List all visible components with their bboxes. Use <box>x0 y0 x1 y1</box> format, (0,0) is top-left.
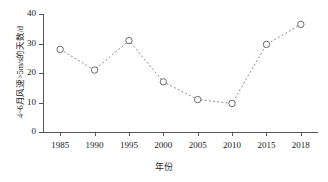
x-axis-line <box>43 132 318 133</box>
y-tick-label: 10 <box>27 97 36 107</box>
y-tick-label: 20 <box>27 67 36 77</box>
plot-area: 010203040 198519901995200020052010201520… <box>43 14 318 132</box>
x-tick-label: 1985 <box>51 140 69 150</box>
data-point-marker <box>160 79 166 85</box>
x-tick <box>60 132 61 136</box>
data-point-marker <box>91 67 97 73</box>
y-tick-label: 30 <box>27 38 36 48</box>
x-tick <box>301 132 302 136</box>
x-tick-label: 1990 <box>86 140 104 150</box>
x-axis-title: 年份 <box>0 160 328 173</box>
data-point-marker <box>298 21 304 27</box>
data-point-marker <box>57 46 63 52</box>
y-axis-title: 4~6月风速>5m/s的天数/d <box>13 7 25 137</box>
line-chart: 4~6月风速>5m/s的天数/d 010203040 1985199019952… <box>0 0 328 182</box>
series-line <box>60 24 301 103</box>
x-tick <box>266 132 267 136</box>
x-tick-label: 2010 <box>223 140 241 150</box>
data-point-marker <box>126 37 132 43</box>
x-tick <box>95 132 96 136</box>
y-tick: 0 <box>39 132 43 133</box>
x-tick-label: 2005 <box>189 140 207 150</box>
data-point-marker <box>194 96 200 102</box>
x-tick <box>232 132 233 136</box>
data-point-marker <box>229 100 235 106</box>
y-tick-label: 40 <box>27 8 36 18</box>
x-tick-label: 2000 <box>154 140 172 150</box>
data-point-marker <box>263 41 269 47</box>
data-series-layer <box>43 14 318 132</box>
x-tick <box>198 132 199 136</box>
y-tick-label: 0 <box>32 126 37 136</box>
x-tick <box>129 132 130 136</box>
x-tick <box>163 132 164 136</box>
x-tick-label: 1995 <box>120 140 138 150</box>
x-tick-label: 2015 <box>257 140 275 150</box>
x-tick-label: 2018 <box>292 140 310 150</box>
